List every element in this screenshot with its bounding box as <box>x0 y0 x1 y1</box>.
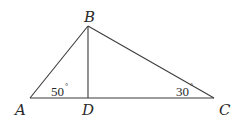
angle-c-degree: ° <box>190 82 193 91</box>
triangle-diagram: B A D C 50 ° 30 ° <box>0 0 238 125</box>
angle-c-value: 30 <box>176 84 189 99</box>
vertex-label-b: B <box>83 8 95 26</box>
segment-bc <box>88 26 214 98</box>
angle-label-a: 50 <box>51 84 64 99</box>
angle-a-degree: ° <box>65 82 68 91</box>
vertex-label-a: A <box>13 101 26 119</box>
vertex-label-c: C <box>219 101 231 119</box>
angle-a-value: 50 <box>51 84 64 99</box>
angle-label-c: 30 <box>176 84 189 99</box>
vertex-label-d: D <box>81 101 94 119</box>
